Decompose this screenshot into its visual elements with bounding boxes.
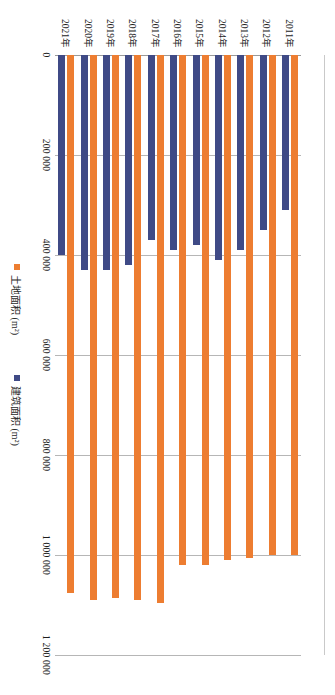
bar-building-area: [148, 55, 155, 240]
bar-groups: [55, 55, 301, 655]
bar-group: [279, 55, 301, 655]
category-axis: 2011年2012年2013年2014年2015年2016年2017年2018年…: [55, 0, 301, 52]
category-axis-tick-label: 2017年: [149, 19, 163, 48]
bar-land-area: [90, 55, 97, 600]
bar-land-area: [179, 55, 186, 565]
bar-group: [234, 55, 256, 655]
legend-item[interactable]: 建筑面积 (m²): [10, 375, 25, 446]
rotated-chart-wrapper: 0200 000400 000600 000800 0001 000 0001 …: [0, 0, 335, 695]
category-axis-tick-label: 2019年: [104, 19, 118, 48]
bar-group: [100, 55, 122, 655]
value-axis-tick-label: 0: [41, 53, 51, 58]
gridline: [55, 655, 301, 656]
category-axis-tick-label: 2020年: [82, 19, 96, 48]
bar-building-area: [193, 55, 200, 245]
bar-building-area: [81, 55, 88, 270]
bar-land-area: [134, 55, 141, 600]
legend-label: 建筑面积 (m²): [10, 386, 25, 446]
category-axis-tick-label: 2011年: [283, 19, 297, 48]
bar-land-area: [291, 55, 298, 555]
bar-land-area: [157, 55, 164, 603]
value-axis-tick-label: 1 000 000: [41, 535, 51, 575]
legend-item[interactable]: 土地面积 (m²): [10, 264, 25, 335]
plot-top-rule: [324, 55, 325, 655]
legend-swatch-icon: [14, 264, 20, 270]
bar-building-area: [260, 55, 267, 230]
bar-land-area: [202, 55, 209, 565]
value-axis-tick-label: 800 000: [41, 439, 51, 471]
bar-group: [167, 55, 189, 655]
bar-land-area: [246, 55, 253, 558]
bar-land-area: [112, 55, 119, 598]
value-axis-tick-label: 600 000: [41, 339, 51, 371]
category-axis-tick-label: 2012年: [260, 19, 274, 48]
bar-chart: 0200 000400 000600 000800 0001 000 0001 …: [0, 0, 335, 695]
bar-building-area: [282, 55, 289, 210]
value-axis-tick-label: 200 000: [41, 139, 51, 171]
bar-land-area: [224, 55, 231, 560]
plot-area: [55, 55, 301, 655]
bar-building-area: [103, 55, 110, 270]
legend-swatch-icon: [14, 375, 20, 381]
category-axis-tick-label: 2021年: [59, 19, 73, 48]
bar-land-area: [67, 55, 74, 593]
bar-group: [55, 55, 77, 655]
category-axis-tick-label: 2016年: [171, 19, 185, 48]
bar-land-area: [269, 55, 276, 555]
bar-building-area: [170, 55, 177, 250]
bar-building-area: [237, 55, 244, 250]
bar-group: [189, 55, 211, 655]
bar-group: [256, 55, 278, 655]
category-axis-tick-label: 2014年: [216, 19, 230, 48]
bar-group: [144, 55, 166, 655]
value-axis-tick-label: 1 200 000: [41, 635, 51, 675]
bar-group: [212, 55, 234, 655]
value-axis-tick-label: 400 000: [41, 239, 51, 271]
bar-group: [122, 55, 144, 655]
legend-label: 土地面积 (m²): [10, 275, 25, 335]
bar-building-area: [125, 55, 132, 265]
bar-building-area: [58, 55, 65, 255]
bar-building-area: [215, 55, 222, 260]
category-axis-tick-label: 2018年: [126, 19, 140, 48]
category-axis-tick-label: 2013年: [238, 19, 252, 48]
category-axis-tick-label: 2015年: [193, 19, 207, 48]
legend: 建筑面积 (m²)土地面积 (m²): [5, 55, 29, 655]
bar-group: [77, 55, 99, 655]
